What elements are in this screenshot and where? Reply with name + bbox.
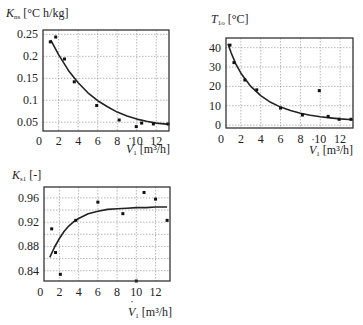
data-point xyxy=(74,219,77,222)
data-point xyxy=(279,107,282,110)
grid xyxy=(226,38,353,128)
x-tick-label: 6 xyxy=(278,132,284,146)
fit-curve xyxy=(228,44,353,120)
data-point xyxy=(318,89,321,92)
x-tick-label: 0 xyxy=(37,285,43,299)
data-point xyxy=(232,61,235,64)
data-point xyxy=(59,273,62,276)
data-point xyxy=(143,191,146,194)
x-tick-label: 10 xyxy=(130,285,142,299)
y-tick-label: 40 xyxy=(209,41,221,55)
data-point xyxy=(243,79,246,82)
data-point xyxy=(255,88,258,91)
y-tick-label: 0.92 xyxy=(18,215,39,229)
x-tick-label: 0 xyxy=(218,132,224,146)
y-tick-label: 0.84 xyxy=(18,264,39,278)
data-point xyxy=(121,212,124,215)
x-axis-label: V1 [m³/h] xyxy=(128,305,172,320)
x-tick-label: 8 xyxy=(114,285,120,299)
plot-area: 0246810120.840.880.920.96 xyxy=(0,0,180,325)
fit-curve xyxy=(50,207,167,257)
x-tick-label: 4 xyxy=(258,132,264,146)
data-point xyxy=(50,227,53,230)
data-point xyxy=(301,114,304,117)
x-tick-label: 2 xyxy=(238,132,244,146)
data-point xyxy=(228,44,231,47)
x-tick-label: 4 xyxy=(76,285,82,299)
y-tick-label: 0 xyxy=(215,118,221,132)
x-tick-label: 2 xyxy=(56,285,62,299)
y-tick-label: 0.88 xyxy=(18,239,39,253)
x-tick-label: 12 xyxy=(150,285,162,299)
y-tick-label: 10 xyxy=(209,99,221,113)
x-tick-label: 8 xyxy=(297,132,303,146)
x-tick-label: 6 xyxy=(95,285,101,299)
data-point xyxy=(338,118,341,121)
data-point xyxy=(154,198,157,201)
data-point xyxy=(166,219,169,222)
data-point xyxy=(96,201,99,204)
plot-frame xyxy=(226,38,353,128)
y-tick-label: 30 xyxy=(209,60,221,74)
data-point xyxy=(54,251,57,254)
data-point xyxy=(350,118,353,121)
data-point xyxy=(327,115,330,118)
y-tick-label: 20 xyxy=(209,79,221,93)
y-tick-label: 0.96 xyxy=(18,191,39,205)
x-axis-label: V1 [m³/h] xyxy=(309,143,353,158)
